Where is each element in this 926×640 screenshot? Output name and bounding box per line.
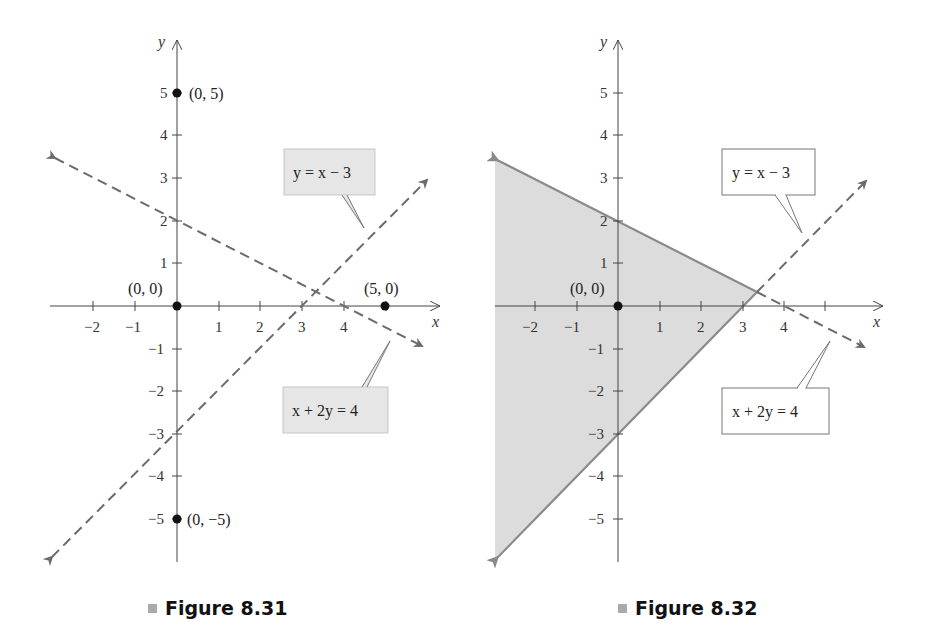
y-tick-label: −5 (148, 511, 164, 527)
label-box-y-equals-x-minus-3: y = x − 3 (722, 149, 815, 233)
caption-text: Figure 8.32 (635, 597, 757, 619)
y-tick-label: 4 (160, 127, 168, 143)
x-tick-label: 4 (780, 319, 788, 335)
point-0-0 (173, 302, 182, 311)
y-tick-label: 5 (160, 85, 168, 101)
equation-label: y = x − 3 (293, 164, 351, 182)
x-tick-label: 1 (215, 319, 223, 335)
y-tick-label: −2 (148, 383, 164, 399)
point-label: (0, 5) (189, 85, 224, 103)
equation-label: y = x − 3 (732, 164, 790, 182)
equation-label: x + 2y = 4 (732, 403, 798, 421)
figure-8-31: y x −2 −1 1 2 3 4 (50, 33, 440, 562)
caption-bullet-icon (618, 604, 627, 613)
point-label: (5, 0) (364, 280, 399, 298)
y-tick-label: −3 (148, 426, 164, 442)
y-tick-label: 2 (160, 213, 168, 229)
y-tick-label: −1 (588, 341, 604, 357)
y-tick-label: −4 (148, 468, 164, 484)
y-tick-label: 3 (600, 170, 608, 186)
y-tick-label: −2 (588, 383, 604, 399)
y-tick-label: 1 (600, 255, 608, 271)
x-axis-label: x (872, 313, 880, 330)
y-tick-label: 4 (600, 127, 608, 143)
dashed-y-equals-x-minus-3 (757, 181, 866, 292)
x-tick-label: −2 (522, 319, 538, 335)
x-tick-label: 4 (340, 319, 348, 335)
figure-8-32: y x −2 −1 1 2 3 4 (495, 33, 883, 562)
figure-caption-8-31: Figure 8.31 (148, 597, 287, 619)
y-axis-label: y (598, 33, 608, 51)
y-tick-label: 5 (600, 85, 608, 101)
y-tick-label: −3 (588, 426, 604, 442)
x-tick-label: 2 (697, 319, 705, 335)
y-tick-label: 3 (160, 170, 168, 186)
y-axis-label: y (156, 33, 166, 51)
x-tick-label: −2 (84, 319, 100, 335)
figures-canvas: y x −2 −1 1 2 3 4 (0, 0, 926, 640)
line-y-equals-x-minus-3 (52, 180, 427, 557)
label-box-x-plus-2y-equals-4: x + 2y = 4 (283, 341, 390, 433)
point-0-minus-5 (173, 515, 182, 524)
y-tick-label: 2 (600, 213, 608, 229)
figure-caption-8-32: Figure 8.32 (618, 597, 757, 619)
x-tick-label: 3 (298, 319, 306, 335)
y-tick-label: −4 (588, 468, 604, 484)
y-tick-label: −1 (148, 341, 164, 357)
point-label: (0, 0) (128, 280, 163, 298)
x-tick-label: −1 (564, 319, 580, 335)
x-axis-label: x (431, 313, 439, 330)
x-tick-label: 1 (656, 319, 664, 335)
x-tick-label: −1 (125, 319, 141, 335)
dashed-x-plus-2y-equals-4 (757, 292, 864, 347)
point-0-0 (614, 302, 623, 311)
x-tick-label: 2 (256, 319, 264, 335)
y-tick-label: −5 (588, 511, 604, 527)
point-5-0 (381, 302, 390, 311)
caption-bullet-icon (148, 604, 157, 613)
label-box-y-equals-x-minus-3: y = x − 3 (284, 149, 375, 228)
label-box-x-plus-2y-equals-4: x + 2y = 4 (722, 341, 830, 434)
y-tick-label: 1 (160, 255, 168, 271)
shaded-solution-region (495, 158, 757, 560)
equation-label: x + 2y = 4 (292, 402, 358, 420)
point-label: (0, 0) (570, 280, 605, 298)
point-label: (0, −5) (187, 511, 231, 529)
caption-text: Figure 8.31 (165, 597, 287, 619)
point-0-5 (173, 89, 182, 98)
x-tick-label: 3 (739, 319, 747, 335)
